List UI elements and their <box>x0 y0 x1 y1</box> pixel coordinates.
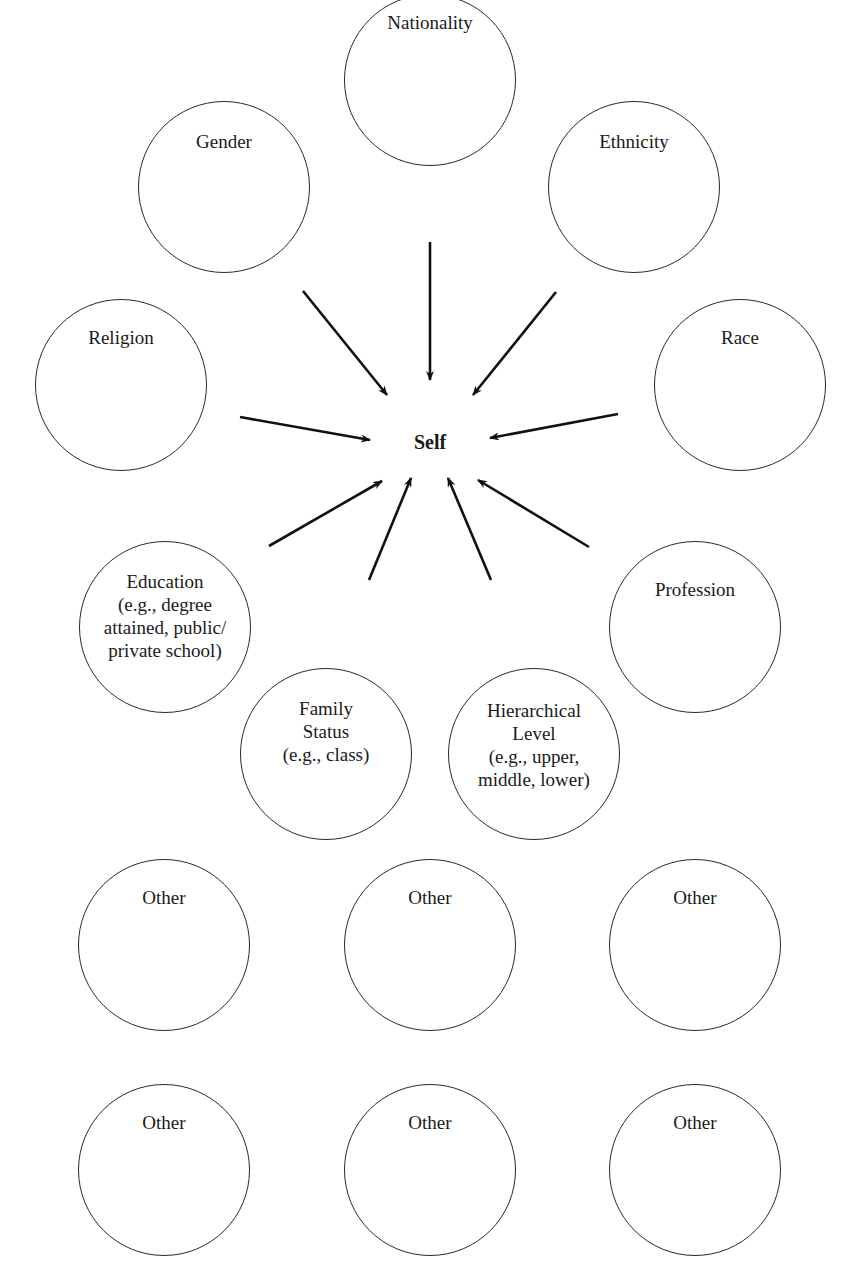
arrow-ethnicity-to-self <box>473 292 556 395</box>
other-node-other-2: Other <box>344 859 516 1031</box>
arrow-gender-to-self <box>303 291 387 395</box>
arrow-profession-to-self <box>478 480 589 547</box>
influence-node-gender: Gender <box>138 101 310 273</box>
other-node-other-1: Other <box>78 859 250 1031</box>
arrow-hierarchical-level-to-self <box>448 478 491 580</box>
other-node-other-6: Other <box>609 1084 781 1256</box>
influence-node-nationality: Nationality <box>344 0 516 166</box>
influence-node-ethnicity: Ethnicity <box>548 101 720 273</box>
node-label: Other <box>610 886 780 909</box>
influence-node-race: Race <box>654 299 826 471</box>
self-identity-diagram: NationalityGenderEthnicityReligionRaceEd… <box>0 0 848 1280</box>
node-label: Race <box>655 326 825 349</box>
node-label: Family Status (e.g., class) <box>241 697 411 766</box>
node-label: Other <box>610 1111 780 1134</box>
arrow-family-status-to-self <box>369 478 411 580</box>
influence-node-family-status: Family Status (e.g., class) <box>240 668 412 840</box>
influence-node-profession: Profession <box>609 541 781 713</box>
self-node-label: Self <box>400 431 460 454</box>
other-node-other-5: Other <box>344 1084 516 1256</box>
other-node-other-4: Other <box>78 1084 250 1256</box>
node-label: Ethnicity <box>549 130 719 153</box>
node-label: Religion <box>36 326 206 349</box>
arrow-race-to-self <box>490 414 618 438</box>
influence-node-hierarchical-level: Hierarchical Level (e.g., upper, middle,… <box>448 668 620 840</box>
node-label: Other <box>345 1111 515 1134</box>
arrow-religion-to-self <box>240 417 370 440</box>
other-node-other-3: Other <box>609 859 781 1031</box>
node-label: Other <box>79 886 249 909</box>
node-label: Profession <box>610 578 780 601</box>
node-label: Education (e.g., degree attained, public… <box>80 570 250 662</box>
node-label: Nationality <box>345 11 515 34</box>
influence-node-religion: Religion <box>35 299 207 471</box>
node-label: Hierarchical Level (e.g., upper, middle,… <box>449 699 619 791</box>
node-label: Other <box>345 886 515 909</box>
node-label: Other <box>79 1111 249 1134</box>
node-label: Gender <box>139 130 309 153</box>
arrow-education-to-self <box>269 481 382 546</box>
influence-node-education: Education (e.g., degree attained, public… <box>79 541 251 713</box>
